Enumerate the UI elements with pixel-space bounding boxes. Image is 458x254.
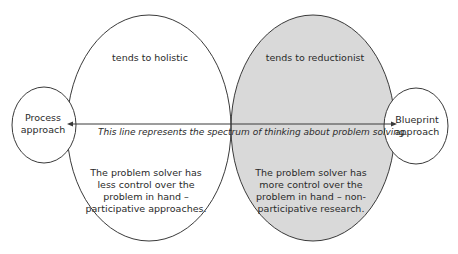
reductionist-body: The problem solver has more control over… bbox=[245, 167, 377, 215]
process-label: Process approach bbox=[16, 112, 70, 136]
holistic-body: The problem solver has less control over… bbox=[82, 167, 210, 215]
spectrum-caption: This line represents the spectrum of thi… bbox=[98, 127, 368, 137]
holistic-heading: tends to holistic bbox=[95, 52, 205, 64]
reductionist-heading: tends to reductionist bbox=[255, 52, 375, 64]
